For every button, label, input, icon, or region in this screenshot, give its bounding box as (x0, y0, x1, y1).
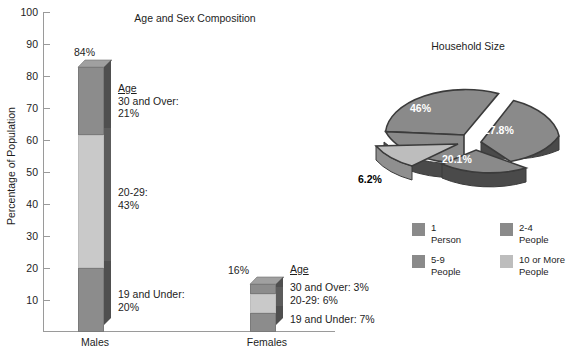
bar-females-total-label: 16% (228, 264, 249, 276)
legend-item-1-person[interactable]: 1 Person (412, 222, 461, 245)
legend-label-2-4-people: 2-4 People (519, 222, 549, 245)
legend-label-10-or-more-people-line1: 10 or More (519, 254, 565, 265)
y-tick-label-70: 70 (6, 102, 38, 114)
bar-chart: Age and Sex Composition Percentage of Po… (0, 0, 350, 351)
y-tick-mark-50 (43, 172, 50, 173)
pie-svg (350, 60, 586, 210)
bar-females-segment-20-29-side (276, 287, 283, 306)
legend-label-10-or-more-people-line2: People (519, 266, 549, 277)
y-tick-label-40: 40 (6, 198, 38, 210)
callout-females-header: Age (290, 263, 309, 276)
legend-swatch-1-person-icon (412, 223, 425, 236)
callout-males-20-29-value: 43% (118, 199, 148, 212)
y-tick-label-20: 20 (6, 262, 38, 274)
callout-males-30-over: Age 30 and Over: 21% (118, 82, 179, 120)
y-tick-mark-60 (43, 140, 50, 141)
legend-label-10-or-more-people: 10 or More People (519, 254, 565, 277)
legend-label-2-4-people-line1: 2-4 (519, 222, 533, 233)
pie-label-20-1: 20.1% (442, 153, 472, 165)
bar-males-segment-30-over-side (104, 60, 111, 128)
legend-label-5-9-people: 5-9 People (431, 254, 461, 277)
legend-swatch-5-9-people-icon (412, 255, 425, 268)
pie-chart-title: Household Size (350, 40, 586, 52)
pie-canvas: 46% 27.8% 20.1% 6.2% (350, 60, 586, 210)
legend-label-2-4-people-line2: People (519, 234, 549, 245)
legend-swatch-2-4-people-icon (500, 223, 513, 236)
y-tick-mark-40 (43, 204, 50, 205)
bar-males-segment-20-29 (78, 135, 104, 268)
legend-label-5-9-people-line2: People (431, 266, 461, 277)
bar-males-total-label: 84% (74, 46, 95, 58)
y-tick-mark-10 (43, 300, 50, 301)
callout-males-30-over-label: 30 and Over: (118, 95, 179, 108)
callout-males-30-over-value: 21% (118, 107, 179, 120)
legend-item-2-4-people[interactable]: 2-4 People (500, 222, 549, 245)
legend-item-5-9-people[interactable]: 5-9 People (412, 254, 461, 277)
x-axis-label-males: Males (60, 336, 130, 348)
y-tick-label-100: 100 (6, 6, 38, 18)
y-tick-label-50: 50 (6, 166, 38, 178)
callout-males-20-29: 20-29: 43% (118, 186, 148, 211)
figure-canvas: Age and Sex Composition Percentage of Po… (0, 0, 586, 351)
y-tick-mark-90 (43, 44, 50, 45)
y-tick-label-30: 30 (6, 230, 38, 242)
pie-label-6-2: 6.2% (358, 173, 382, 185)
pie-chart: Household Size (350, 0, 586, 351)
callout-males-header: Age (118, 82, 179, 95)
legend-label-1-person-line1: 1 (431, 222, 436, 233)
callout-females-header-block: Age (290, 263, 309, 276)
legend-swatch-10-or-more-people-icon (500, 255, 513, 268)
legend-label-1-person-line2: Person (431, 234, 461, 245)
legend-item-10-or-more-people[interactable]: 10 or More People (500, 254, 565, 277)
legend-label-1-person: 1 Person (431, 222, 461, 245)
callout-males-20-29-label: 20-29: (118, 186, 148, 199)
y-tick-label-80: 80 (6, 70, 38, 82)
bar-females-segment-20-29 (250, 294, 276, 313)
y-tick-label-10: 10 (6, 294, 38, 306)
callout-males-19-under-label: 19 and Under: (118, 288, 185, 301)
bar-females-segment-30-over (250, 284, 276, 294)
bar-males-segment-20-29-side (104, 128, 111, 261)
y-tick-mark-70 (43, 108, 50, 109)
bar-males-segment-19-under-side (104, 261, 111, 325)
y-tick-mark-20 (43, 268, 50, 269)
y-tick-label-90: 90 (6, 38, 38, 50)
bar-males-segment-30-over (78, 67, 104, 135)
pie-legend: 1 Person 2-4 People 5-9 People (412, 222, 586, 292)
x-axis-label-females: Females (232, 336, 302, 348)
bar-females-segment-19-under (250, 313, 276, 332)
legend-label-5-9-people-line1: 5-9 (431, 254, 445, 265)
callout-males-19-under: 19 and Under: 20% (118, 288, 185, 313)
y-tick-mark-30 (43, 236, 50, 237)
pie-label-46: 46% (410, 102, 431, 114)
pie-label-27-8: 27.8% (484, 124, 514, 136)
y-tick-label-60: 60 (6, 134, 38, 146)
bar-males-segment-19-under (78, 268, 104, 332)
y-tick-mark-100 (43, 12, 50, 13)
callout-males-19-under-value: 20% (118, 301, 185, 314)
y-tick-mark-80 (43, 76, 50, 77)
